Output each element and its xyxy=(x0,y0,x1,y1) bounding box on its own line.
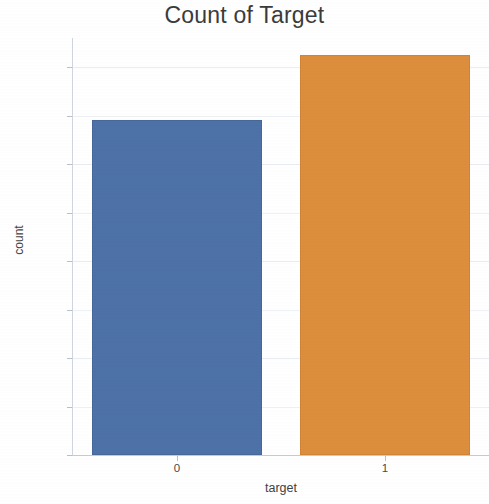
x-axis-label: target xyxy=(73,481,489,495)
y-tick-mark xyxy=(67,455,72,456)
bar-1 xyxy=(300,55,471,455)
y-tick-mark xyxy=(67,213,72,214)
x-tick-mark xyxy=(385,456,386,461)
x-tick-label: 0 xyxy=(147,462,207,474)
y-tick-mark xyxy=(67,310,72,311)
y-tick-mark xyxy=(67,164,72,165)
y-tick-mark xyxy=(67,261,72,262)
y-tick-mark xyxy=(67,67,72,68)
bar-0 xyxy=(92,120,263,455)
y-tick-mark xyxy=(67,116,72,117)
x-axis-spine xyxy=(72,455,489,456)
chart-figure: Count of Target 020406080100120140160 01… xyxy=(0,0,489,504)
y-tick-mark xyxy=(67,358,72,359)
y-tick-mark xyxy=(67,407,72,408)
y-axis-label-text: count xyxy=(12,225,26,254)
plot-area xyxy=(73,38,489,455)
x-tick-label: 1 xyxy=(355,462,415,474)
y-axis-label: count xyxy=(8,195,30,285)
x-tick-mark xyxy=(177,456,178,461)
chart-title: Count of Target xyxy=(0,2,489,29)
